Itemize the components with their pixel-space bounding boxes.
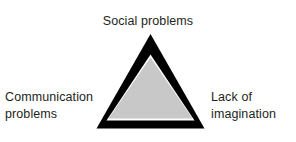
triad-diagram: Social problems Communication problems L… [0, 0, 296, 142]
vertex-label-communication-problems: Communication problems [5, 89, 97, 123]
vertex-label-social-problems: Social problems [0, 13, 296, 30]
vertex-label-lack-of-imagination: Lack of imagination [211, 89, 296, 123]
